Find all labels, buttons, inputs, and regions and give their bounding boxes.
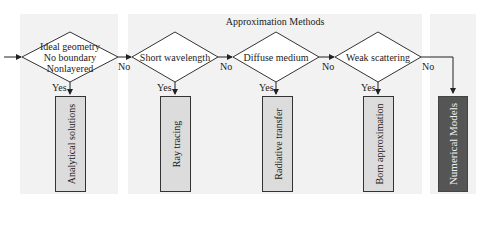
- decision-1-line-1: Ideal geometry: [40, 41, 100, 52]
- yes-label-3: Yes: [259, 82, 274, 93]
- outcome-label: Analytical solutions: [65, 104, 76, 184]
- outcome-label: Ray tracing: [170, 121, 181, 167]
- outcome-born-approximation: Born approximation: [363, 96, 394, 192]
- outcome-analytical-solutions: Analytical solutions: [55, 96, 86, 192]
- decision-4-text: Weak scattering: [346, 52, 410, 63]
- outcome-ray-tracing: Ray tracing: [160, 96, 191, 192]
- decision-1-text: Ideal geometry No boundary Nonlayered: [40, 41, 100, 74]
- outcome-label: Radiative transfer: [272, 108, 283, 179]
- no-label-4: No: [422, 61, 434, 72]
- no-label-3: No: [322, 61, 334, 72]
- no-label-1: No: [118, 61, 130, 72]
- yes-label-1: Yes: [52, 82, 67, 93]
- no-label-2: No: [220, 61, 232, 72]
- yes-label-2: Yes: [157, 82, 172, 93]
- outcome-label: Born approximation: [373, 104, 384, 185]
- decision-3-text: Diffuse medium: [243, 52, 308, 63]
- decision-2-text: Short wavelength: [140, 52, 210, 63]
- outcome-radiative-transfer: Radiative transfer: [262, 96, 293, 192]
- outcome-numerical-models: Numerical Models: [438, 96, 468, 192]
- decision-1-line-2: No boundary: [40, 52, 100, 63]
- outcome-label: Numerical Models: [447, 103, 459, 185]
- yes-label-4: Yes: [361, 82, 376, 93]
- decision-1-line-3: Nonlayered: [40, 63, 100, 74]
